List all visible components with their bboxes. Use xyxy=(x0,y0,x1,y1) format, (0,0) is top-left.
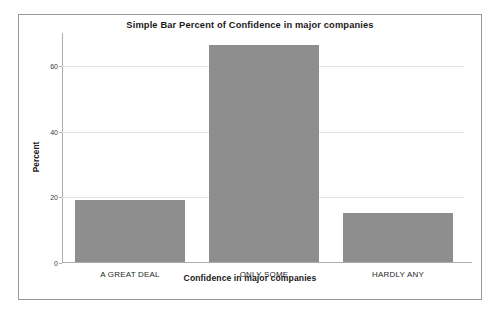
y-tick-label: 0 xyxy=(40,260,58,267)
x-axis-title: Confidence in major companies xyxy=(19,273,481,283)
bar xyxy=(209,45,318,262)
plot-area: 0204060 A GREAT DEALONLY SOMEHARDLY ANY xyxy=(62,33,482,263)
chart-title: Simple Bar Percent of Confidence in majo… xyxy=(19,20,481,30)
y-tick-label: 60 xyxy=(40,62,58,69)
bar-series xyxy=(63,33,465,262)
y-tick-mark xyxy=(59,132,62,133)
y-tick-mark xyxy=(59,66,62,67)
y-tick-mark xyxy=(59,197,62,198)
bar xyxy=(343,213,452,262)
y-tick-mark xyxy=(59,263,62,264)
y-tick-label: 40 xyxy=(40,128,58,135)
y-tick-label: 20 xyxy=(40,194,58,201)
x-axis-line xyxy=(62,262,472,263)
chart-figure: Simple Bar Percent of Confidence in majo… xyxy=(18,14,482,300)
y-axis-title: Percent xyxy=(31,142,41,172)
bar xyxy=(75,200,184,262)
